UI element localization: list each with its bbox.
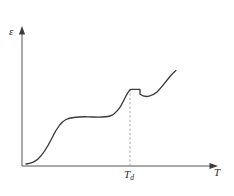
figure-container: ε T Td bbox=[0, 0, 234, 196]
x-axis bbox=[22, 163, 218, 169]
chart-canvas bbox=[0, 0, 234, 196]
y-axis-label: ε bbox=[9, 26, 13, 37]
td-tick-label: Td bbox=[124, 169, 134, 181]
y-axis bbox=[19, 26, 25, 166]
x-axis-label: T bbox=[214, 167, 220, 178]
y-axis-arrowhead bbox=[19, 26, 25, 35]
td-label-subscript: d bbox=[130, 173, 134, 182]
dielectric-curve bbox=[26, 71, 176, 164]
